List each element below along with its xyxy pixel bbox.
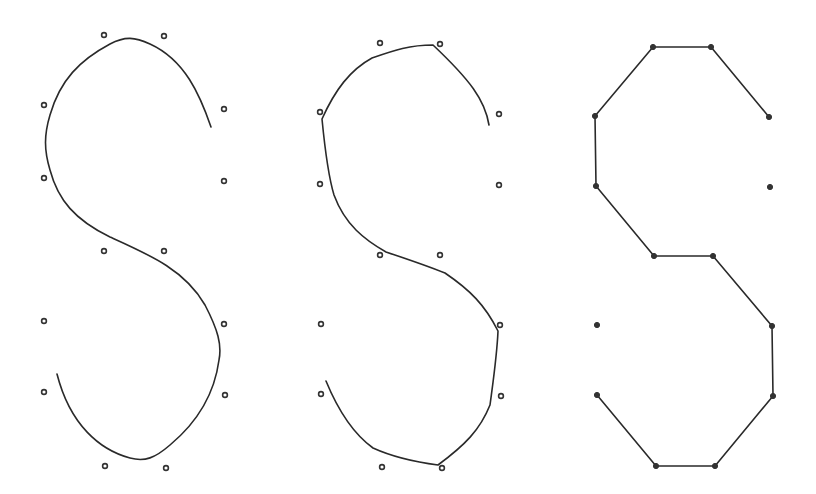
control-point [766, 114, 771, 119]
control-point [499, 394, 504, 399]
control-point [651, 253, 656, 258]
control-point [497, 183, 502, 188]
control-point [223, 393, 228, 398]
control-points [318, 41, 504, 471]
panel-polyline [592, 44, 775, 468]
control-point [42, 103, 47, 108]
control-point [102, 249, 107, 254]
control-point [42, 319, 47, 324]
control-point [592, 113, 597, 118]
control-point [222, 107, 227, 112]
control-point [498, 323, 503, 328]
control-point [770, 393, 775, 398]
control-point [594, 392, 599, 397]
control-point [319, 392, 324, 397]
control-point [593, 183, 598, 188]
control-point [708, 44, 713, 49]
control-point [440, 466, 445, 471]
control-point [497, 112, 502, 117]
s-curve-approximating [46, 38, 220, 459]
control-point [162, 34, 167, 39]
s-curve-diagram [0, 0, 816, 494]
panel-interpolating-spline [318, 41, 504, 471]
control-point [103, 464, 108, 469]
control-point [378, 253, 383, 258]
control-point [102, 33, 107, 38]
control-point [438, 253, 443, 258]
s-polyline [595, 47, 773, 466]
control-point [594, 322, 599, 327]
control-point [318, 182, 323, 187]
control-point [319, 322, 324, 327]
control-point [42, 176, 47, 181]
control-point [378, 41, 383, 46]
control-point [164, 466, 169, 471]
control-point [318, 110, 323, 115]
control-point [42, 390, 47, 395]
control-point [710, 253, 715, 258]
panel-approximating-spline [42, 33, 228, 471]
control-point [380, 465, 385, 470]
control-point [650, 44, 655, 49]
control-point [222, 322, 227, 327]
control-point [712, 463, 717, 468]
control-point [162, 249, 167, 254]
control-point [438, 42, 443, 47]
control-point [767, 184, 772, 189]
control-point [222, 179, 227, 184]
s-curve-interpolating [322, 45, 498, 465]
control-point [653, 463, 658, 468]
control-point [769, 323, 774, 328]
